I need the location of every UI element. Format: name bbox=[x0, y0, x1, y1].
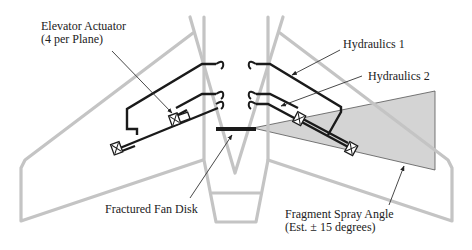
spray-angle-leader bbox=[389, 166, 404, 205]
hydraulics-1-label: Hydraulics 1 bbox=[343, 38, 405, 51]
elevator-actuator-leader bbox=[112, 51, 172, 113]
fractured-fan-disk-label: Fractured Fan Disk bbox=[105, 203, 198, 216]
hydraulics-2-leader bbox=[281, 76, 362, 106]
fragment-spray-label: Fragment Spray Angle (Est. ± 15 degrees) bbox=[285, 208, 394, 234]
hydraulics-2-label: Hydraulics 2 bbox=[368, 70, 430, 83]
left-elevator-actuator-outer bbox=[111, 142, 123, 155]
elevator-actuator-label: Elevator Actuator (4 per Plane) bbox=[41, 20, 126, 46]
fractured-fan-disk bbox=[216, 127, 256, 131]
fuselage-left-wall bbox=[204, 17, 268, 222]
right-line-hooks bbox=[249, 62, 256, 109]
left-line-hooks bbox=[216, 62, 223, 109]
left-horizontal-stabilizer bbox=[21, 33, 203, 221]
